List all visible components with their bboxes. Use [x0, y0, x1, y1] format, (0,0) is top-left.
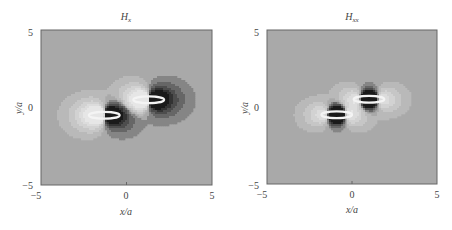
contour-cell	[371, 88, 373, 90]
contour-cell	[341, 94, 343, 96]
contour-cell	[149, 98, 151, 100]
contour-cell	[97, 92, 99, 94]
contour-cell	[151, 120, 153, 122]
contour-cell	[395, 96, 397, 98]
contour-cell	[391, 92, 393, 94]
contour-cell	[317, 116, 319, 118]
contour-cell	[317, 106, 319, 108]
contour-cell	[73, 98, 75, 100]
contour-cell	[161, 90, 163, 92]
contour-cell	[99, 130, 101, 132]
contour-cell	[365, 86, 367, 88]
contour-cell	[135, 84, 137, 86]
contour-cell	[297, 116, 299, 118]
contour-cell	[169, 104, 171, 106]
contour-cell	[301, 124, 303, 126]
contour-cell	[109, 134, 111, 136]
contour-cell	[161, 110, 163, 112]
contour-cell	[403, 110, 405, 112]
contour-cell	[81, 124, 83, 126]
contour-cell	[77, 108, 79, 110]
contour-cell	[317, 112, 319, 114]
contour-cell	[383, 114, 385, 116]
contour-cell	[113, 82, 115, 84]
contour-cell	[167, 92, 169, 94]
contour-cell	[101, 90, 103, 92]
contour-cell	[129, 84, 131, 86]
contour-cell	[339, 88, 341, 90]
contour-cell	[133, 88, 135, 90]
contour-cell	[399, 84, 401, 86]
contour-cell	[133, 78, 135, 80]
contour-cell	[155, 118, 157, 120]
contour-cell	[115, 106, 117, 108]
contour-cell	[107, 124, 109, 126]
contour-cell	[377, 98, 379, 100]
contour-cell	[131, 106, 133, 108]
contour-cell	[375, 108, 377, 110]
contour-cell	[375, 86, 377, 88]
contour-cell	[101, 104, 103, 106]
contour-cell	[171, 118, 173, 120]
contour-cell	[129, 82, 131, 84]
contour-cell	[367, 84, 369, 86]
contour-cell	[295, 108, 297, 110]
contour-cell	[311, 98, 313, 100]
contour-cell	[317, 104, 319, 106]
contour-cell	[63, 104, 65, 106]
contour-cell	[121, 80, 123, 82]
contour-cell	[165, 112, 167, 114]
contour-cell	[349, 128, 351, 130]
contour-cell	[69, 122, 71, 124]
contour-cell	[391, 98, 393, 100]
contour-cell	[371, 82, 373, 84]
contour-cell	[127, 84, 129, 86]
contour-cell	[385, 92, 387, 94]
contour-cell	[355, 116, 357, 118]
contour-cell	[299, 120, 301, 122]
contour-cell	[81, 138, 83, 140]
contour-cell	[115, 80, 117, 82]
contour-cell	[67, 112, 69, 114]
contour-cell	[163, 78, 165, 80]
contour-cell	[165, 94, 167, 96]
contour-cell	[365, 124, 367, 126]
contour-cell	[133, 124, 135, 126]
contour-cell	[153, 116, 155, 118]
contour-cell	[105, 94, 107, 96]
contour-cell	[337, 120, 339, 122]
contour-cell	[69, 100, 71, 102]
contour-cell	[121, 122, 123, 124]
contour-cell	[311, 102, 313, 104]
contour-cell	[189, 104, 191, 106]
contour-cell	[133, 76, 135, 78]
contour-cell	[175, 106, 177, 108]
contour-cell	[369, 98, 371, 100]
contour-cell	[95, 106, 97, 108]
contour-cell	[87, 136, 89, 138]
contour-cell	[143, 98, 145, 100]
contour-cell	[141, 88, 143, 90]
contour-cell	[117, 124, 119, 126]
contour-cell	[109, 130, 111, 132]
panel-hx: Hx 5 0 −5 −5 0 5 x/a y/a	[13, 11, 215, 217]
contour-cell	[157, 82, 159, 84]
contour-cell	[317, 130, 319, 132]
contour-cell	[75, 92, 77, 94]
contour-cell	[305, 118, 307, 120]
contour-cell	[155, 82, 157, 84]
contour-cell	[387, 98, 389, 100]
contour-cell	[129, 136, 131, 138]
contour-cell	[63, 110, 65, 112]
contour-cell	[303, 102, 305, 104]
contour-cell	[73, 130, 75, 132]
contour-cell	[113, 134, 115, 136]
contour-cell	[135, 116, 137, 118]
contour-cell	[63, 128, 65, 130]
contour-cell	[123, 110, 125, 112]
contour-cell	[93, 114, 95, 116]
contour-cell	[191, 108, 193, 110]
contour-cell	[67, 132, 69, 134]
contour-cell	[177, 88, 179, 90]
contour-cell	[79, 128, 81, 130]
